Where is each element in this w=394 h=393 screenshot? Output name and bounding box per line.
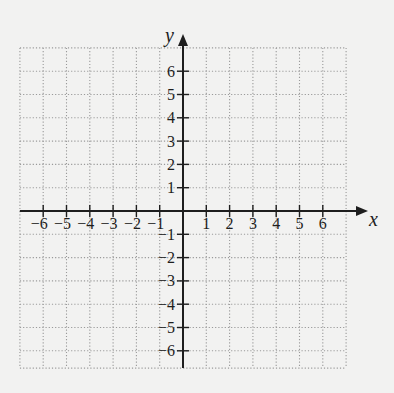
y-tick-label: −4 bbox=[158, 296, 175, 313]
x-tick-label: 6 bbox=[319, 215, 327, 232]
y-tick-label: 1 bbox=[167, 179, 175, 196]
y-tick-label: 6 bbox=[167, 63, 175, 80]
y-tick-label: 3 bbox=[167, 133, 175, 150]
y-tick-label: −1 bbox=[158, 226, 175, 243]
x-tick-label: 3 bbox=[249, 215, 257, 232]
x-tick-label: 1 bbox=[202, 215, 210, 232]
x-tick-label: 5 bbox=[296, 215, 304, 232]
y-tick-label: 2 bbox=[167, 156, 175, 173]
x-tick-label: −5 bbox=[54, 215, 71, 232]
y-tick-label: −6 bbox=[158, 342, 175, 359]
axes bbox=[20, 34, 368, 368]
y-tick-label: 5 bbox=[167, 86, 175, 103]
x-tick-label: −4 bbox=[77, 215, 94, 232]
coordinate-plane: −6−5−4−3−2−1123456654321−1−2−3−4−5−6 x y bbox=[0, 0, 394, 393]
x-axis-label: x bbox=[368, 208, 378, 230]
y-tick-label: 4 bbox=[167, 109, 175, 126]
y-axis-arrow-icon bbox=[178, 34, 188, 46]
y-tick-label: −2 bbox=[158, 249, 175, 266]
x-tick-label: −2 bbox=[124, 215, 141, 232]
x-tick-label: 2 bbox=[226, 215, 234, 232]
x-axis-arrow-icon bbox=[356, 206, 368, 216]
y-tick-label: −5 bbox=[158, 319, 175, 336]
y-tick-label: −3 bbox=[158, 272, 175, 289]
x-tick-label: 4 bbox=[272, 215, 280, 232]
x-tick-label: −6 bbox=[31, 215, 48, 232]
x-tick-label: −3 bbox=[101, 215, 118, 232]
y-axis-label: y bbox=[163, 24, 174, 47]
